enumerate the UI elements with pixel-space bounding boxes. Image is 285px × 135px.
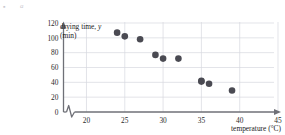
data-point-marker <box>121 33 128 40</box>
x-axis-arrowhead <box>274 109 281 115</box>
y-tick-label: 20 <box>51 93 59 102</box>
gridlines-group <box>64 22 279 112</box>
data-point-marker <box>175 55 182 62</box>
data-point-marker <box>229 87 236 94</box>
data-point-marker <box>198 78 205 85</box>
x-tick-label: 35 <box>198 116 206 125</box>
y-axis-title-line1: drying time, y <box>60 22 102 31</box>
y-tick-label: 40 <box>51 78 59 87</box>
data-point-marker <box>137 36 144 43</box>
y-tick-label: 120 <box>47 19 58 28</box>
x-axis-break-zigzag <box>67 106 75 118</box>
x-tick-label: 20 <box>83 116 91 125</box>
y-tick-label: 100 <box>47 34 58 43</box>
plot-canvas: 202530354045 020406080100120 drying time… <box>0 0 285 135</box>
y-axis-title-line2: (min) <box>60 31 77 40</box>
y-tick-label: 80 <box>51 48 59 57</box>
data-point-marker <box>152 52 159 59</box>
scatter-plot-figure: 202530354045 020406080100120 drying time… <box>0 0 285 135</box>
data-point-marker <box>114 29 121 36</box>
data-point-marker <box>160 55 167 62</box>
y-tick-label: 60 <box>51 63 59 72</box>
x-tick-label: 30 <box>159 116 167 125</box>
y-tick-label: 0 <box>55 108 59 117</box>
figure-root: ▪ a 202530354045 020406080100120 drying … <box>0 0 285 135</box>
axes-group <box>60 22 281 118</box>
data-points-group <box>114 29 236 93</box>
x-axis-title: temperature (°C) <box>231 124 281 133</box>
y-tick-labels-group: 020406080100120 <box>47 19 58 117</box>
x-tick-label: 25 <box>121 116 129 125</box>
data-point-marker <box>206 81 213 88</box>
